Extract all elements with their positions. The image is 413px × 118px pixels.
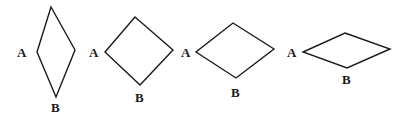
rhombus-1	[37, 7, 75, 97]
diagram-canvas: A B A B A B A B	[0, 0, 413, 118]
vertex-label-b: B	[342, 72, 351, 87]
rhombus-2	[105, 17, 173, 85]
vertex-label-a: A	[181, 45, 191, 60]
rhombus-group-3: A B	[181, 23, 274, 100]
rhombus-group-1: A B	[17, 7, 75, 115]
vertex-label-b: B	[51, 100, 60, 115]
rhombus-4	[303, 33, 390, 68]
rhombus-group-2: A B	[89, 17, 173, 105]
vertex-label-b: B	[135, 90, 144, 105]
vertex-label-b: B	[231, 85, 240, 100]
rhombus-group-4: A B	[287, 33, 390, 87]
vertex-label-a: A	[17, 45, 27, 60]
rhombus-3	[196, 23, 274, 78]
vertex-label-a: A	[89, 45, 99, 60]
vertex-label-a: A	[287, 45, 297, 60]
